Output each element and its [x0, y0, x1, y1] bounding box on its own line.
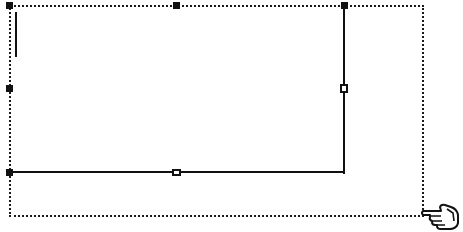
selection-marquee: [9, 5, 424, 217]
resize-handle-top-right[interactable]: [341, 2, 348, 9]
resize-handle-top-left[interactable]: [6, 2, 13, 9]
drawing-canvas[interactable]: [0, 0, 463, 232]
resize-handle-bottom-left[interactable]: [6, 169, 13, 176]
resize-handle-middle-left[interactable]: [6, 85, 13, 92]
resize-handle-top-middle[interactable]: [173, 2, 180, 9]
shape-inner-line: [15, 12, 17, 57]
resize-handle-bottom-middle[interactable]: [172, 169, 181, 176]
resize-handle-middle-right[interactable]: [340, 84, 348, 93]
pointing-hand-icon: [421, 201, 461, 231]
